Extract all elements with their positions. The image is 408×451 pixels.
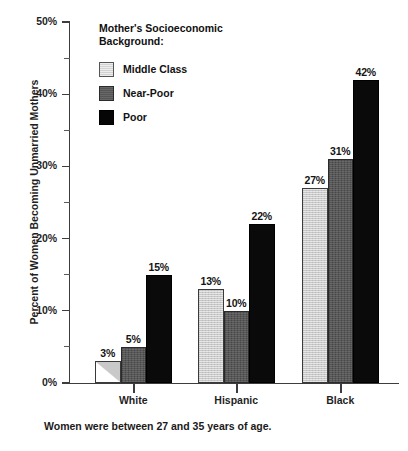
x-axis-line <box>69 383 399 384</box>
x-category-label-white: White <box>88 394 178 406</box>
y-tick-label: 0% <box>17 376 57 388</box>
bar-white-middle-class <box>95 361 121 383</box>
x-category-label-black: Black <box>295 394 385 406</box>
legend-label-poor: Poor <box>123 111 147 123</box>
legend-title: Mother's Socioeconomic Background: <box>99 22 289 48</box>
y-tick-major <box>62 94 70 95</box>
x-group-tick <box>236 384 237 393</box>
legend-swatch-poor <box>99 110 114 125</box>
legend-item-near-poor: Near-Poor <box>99 81 289 105</box>
bar-hispanic-near-poor <box>224 311 250 383</box>
legend-label-near-poor: Near-Poor <box>123 87 174 99</box>
bar-white-near-poor <box>121 347 147 383</box>
bar-black-middle-class <box>302 188 328 383</box>
legend-item-poor: Poor <box>99 105 289 129</box>
legend-swatch-near-poor <box>99 86 114 101</box>
legend-item-middle-class: Middle Class <box>99 57 289 81</box>
y-tick-major <box>62 238 70 239</box>
x-group-tick <box>133 384 134 393</box>
y-tick-minor <box>64 202 70 203</box>
bar-chart: 0%10%20%30%40%50% Percent of Women Becom… <box>0 0 408 451</box>
x-group-tick <box>340 384 341 393</box>
bar-value-label: 42% <box>349 66 383 78</box>
bar-value-label: 22% <box>245 210 279 222</box>
y-tick-minor <box>64 58 70 59</box>
y-tick-minor <box>64 274 70 275</box>
y-tick-major <box>62 382 70 383</box>
y-tick-minor <box>64 346 70 347</box>
y-tick-major <box>62 166 70 167</box>
y-tick-major <box>62 21 70 22</box>
bar-value-label: 13% <box>194 275 228 287</box>
y-axis-title: Percent of Women Becoming Unmarried Moth… <box>28 52 40 352</box>
y-tick-major <box>62 310 70 311</box>
y-tick-minor <box>64 130 70 131</box>
bar-white-poor <box>146 275 172 383</box>
legend-swatch-middle-class <box>99 62 114 77</box>
x-category-label-hispanic: Hispanic <box>191 394 281 406</box>
legend-label-middle-class: Middle Class <box>123 63 187 75</box>
chart-caption: Women were between 27 and 35 years of ag… <box>44 420 271 432</box>
bar-black-near-poor <box>328 159 354 383</box>
bar-black-poor <box>353 80 379 383</box>
bar-hispanic-poor <box>249 224 275 383</box>
legend: Mother's Socioeconomic Background: Middl… <box>99 22 289 129</box>
bar-value-label: 15% <box>142 261 176 273</box>
y-tick-label: 50% <box>17 15 57 27</box>
